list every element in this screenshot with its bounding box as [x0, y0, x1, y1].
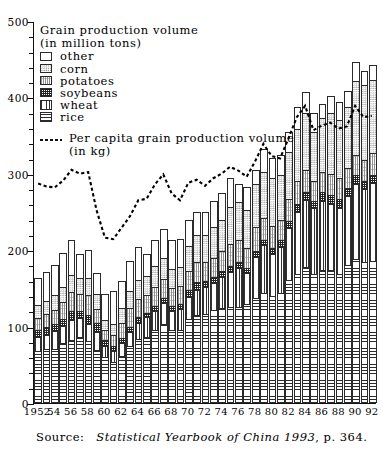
legend-items: othercornpotatoessoybeanswheatrice: [40, 50, 255, 123]
x-axis-labels: 1952545658606264666870727476788082848688…: [0, 406, 383, 424]
legend-swatch-corn-icon: [40, 64, 52, 74]
x-axis-tick-label: 84: [298, 406, 311, 417]
x-axis-tick-label: 76: [231, 406, 244, 417]
x-axis-tick-label: 70: [181, 406, 194, 417]
x-axis-tick-label: 56: [64, 406, 77, 417]
source-label: Source:: [36, 430, 84, 444]
x-axis-tick-label: 58: [81, 406, 94, 417]
y-axis-minor-tick: [29, 205, 34, 206]
x-axis-tick-label: 60: [97, 406, 110, 417]
legend-swatch-soybeans-icon: [40, 88, 52, 98]
legend-per-capita: Per capita grain production volume (in k…: [40, 132, 255, 158]
y-axis-minor-tick: [29, 53, 34, 54]
y-axis-minor-tick: [29, 358, 34, 359]
x-axis-tick-label: 78: [248, 406, 261, 417]
y-axis-major-tick: [27, 22, 34, 23]
y-axis-minor-tick: [29, 266, 34, 267]
x-axis-tick-label: 82: [281, 406, 294, 417]
y-axis-tick-label: 100: [0, 322, 29, 334]
x-axis-tick-label: 88: [332, 406, 345, 417]
y-axis-minor-tick: [29, 221, 34, 222]
y-axis-minor-tick: [29, 312, 34, 313]
y-axis-minor-tick: [29, 282, 34, 283]
y-axis-minor-tick: [29, 297, 34, 298]
x-axis-tick-label: 90: [348, 406, 361, 417]
legend: Grain production volume (in million tons…: [40, 24, 255, 158]
y-axis-major-tick: [27, 328, 34, 329]
y-axis-tick-label: 400: [0, 92, 29, 104]
dashed-line-swatch-icon: [40, 135, 62, 146]
legend-label: rice: [60, 110, 85, 124]
y-axis-tick-label: 200: [0, 245, 29, 257]
y-axis-minor-tick: [29, 114, 34, 115]
x-axis-tick-label: 62: [114, 406, 127, 417]
y-axis-minor-tick: [29, 83, 34, 84]
legend-swatch-rice-icon: [40, 112, 52, 122]
source-note: Source:Statistical Yearbook of China 199…: [36, 430, 367, 444]
source-tail: , p. 364.: [315, 430, 367, 444]
y-axis-minor-tick: [29, 373, 34, 374]
x-axis-tick-label: 66: [148, 406, 161, 417]
x-axis-tick-label: 72: [198, 406, 211, 417]
y-axis-tick-label: 500: [0, 16, 29, 28]
x-axis-tick-label: 68: [164, 406, 177, 417]
y-axis-minor-tick: [29, 343, 34, 344]
legend-swatch-other-icon: [40, 52, 52, 62]
legend-swatch-wheat-icon: [40, 100, 52, 110]
x-axis-tick-label: 54: [47, 406, 60, 417]
y-axis-major-tick: [27, 98, 34, 99]
x-axis-tick-label: 92: [365, 406, 378, 417]
x-axis-tick-label: 64: [131, 406, 144, 417]
y-axis-minor-tick: [29, 144, 34, 145]
y-axis-minor-tick: [29, 129, 34, 130]
y-axis-major-tick: [27, 175, 34, 176]
y-axis-major-tick: [27, 251, 34, 252]
y-axis-minor-tick: [29, 160, 34, 161]
legend-item-rice: rice: [40, 111, 255, 123]
x-axis-tick-label: 74: [215, 406, 228, 417]
y-axis-minor-tick: [29, 68, 34, 69]
figure-grain-production: 0100200300400500 19525456586062646668707…: [0, 0, 383, 455]
x-axis-tick-label: 86: [315, 406, 328, 417]
legend-per-capita-line2: (in kg): [69, 145, 294, 158]
source-title: Statistical Yearbook of China 1993: [96, 430, 315, 444]
y-axis-minor-tick: [29, 389, 34, 390]
y-axis-minor-tick: [29, 236, 34, 237]
y-axis-tick-label: 300: [0, 169, 29, 181]
y-axis-minor-tick: [29, 37, 34, 38]
x-axis-tick-label: 80: [265, 406, 278, 417]
legend-title-line2: (in million tons): [40, 37, 255, 50]
y-axis-minor-tick: [29, 190, 34, 191]
y-axis-major-tick: [27, 404, 34, 405]
legend-swatch-potatoes-icon: [40, 76, 52, 86]
